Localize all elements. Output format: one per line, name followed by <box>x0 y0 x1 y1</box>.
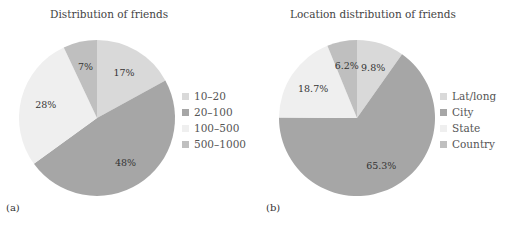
legend-swatch-icon <box>440 109 447 116</box>
legend-item: 500–1000 <box>182 136 246 152</box>
panel-label: (b) <box>266 202 280 213</box>
legend-swatch-icon <box>440 93 447 100</box>
legend-item: 20–100 <box>182 104 246 120</box>
slice-value-label: 28% <box>35 99 56 110</box>
legend: 10–2020–100100–500500–1000 <box>182 88 246 152</box>
slice-value-label: 48% <box>115 157 136 168</box>
legend-swatch-icon <box>182 93 189 100</box>
legend-label: City <box>452 104 474 120</box>
legend-item: Country <box>440 136 496 152</box>
legend-item: 10–20 <box>182 88 246 104</box>
panel-label: (a) <box>6 202 20 213</box>
slice-value-label: 6.2% <box>335 60 359 71</box>
legend-item: State <box>440 120 496 136</box>
legend-label: 500–1000 <box>194 136 246 152</box>
legend-swatch-icon <box>182 109 189 116</box>
slice-value-label: 18.7% <box>298 83 328 94</box>
chart-panel-a: Distribution of friends 10–2020–100100–5… <box>0 0 260 227</box>
slice-value-label: 65.3% <box>366 160 396 171</box>
legend-label: 20–100 <box>194 104 233 120</box>
legend-label: 100–500 <box>194 120 239 136</box>
legend-label: State <box>452 120 480 136</box>
slice-value-label: 7% <box>78 61 93 72</box>
legend-label: 10–20 <box>194 88 226 104</box>
legend-swatch-icon <box>440 125 447 132</box>
slice-value-label: 9.8% <box>361 62 385 73</box>
legend-item: City <box>440 104 496 120</box>
legend-swatch-icon <box>182 141 189 148</box>
chart-panel-b: Location distribution of friends Lat/lon… <box>260 0 520 227</box>
legend-item: 100–500 <box>182 120 246 136</box>
legend-label: Lat/long <box>452 88 496 104</box>
legend-swatch-icon <box>182 125 189 132</box>
legend-swatch-icon <box>440 141 447 148</box>
legend-label: Country <box>452 136 495 152</box>
legend-item: Lat/long <box>440 88 496 104</box>
slice-value-label: 17% <box>113 67 134 78</box>
legend: Lat/longCityStateCountry <box>440 88 496 152</box>
